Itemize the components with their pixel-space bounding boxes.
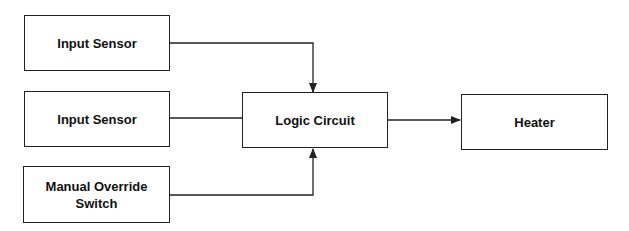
input-sensor-1-label: Input Sensor [57,35,136,52]
manual-override-label-line1: Manual Override [46,178,148,195]
edge-override-logic [169,149,313,195]
input-sensor-2-label: Input Sensor [57,111,136,128]
edge-input1-logic [169,43,313,92]
input-sensor-2-node: Input Sensor [24,91,170,147]
logic-circuit-label: Logic Circuit [275,112,354,129]
manual-override-node: Manual Override Switch [23,166,170,223]
heater-node: Heater [461,94,608,150]
manual-override-label-line2: Switch [76,195,118,212]
input-sensor-1-node: Input Sensor [24,15,170,71]
heater-label: Heater [514,114,554,131]
logic-circuit-node: Logic Circuit [242,92,388,148]
